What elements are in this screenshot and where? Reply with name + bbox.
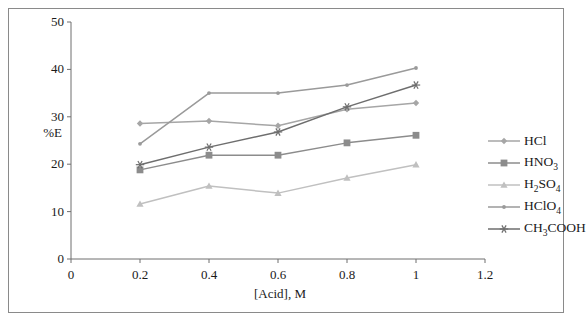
legend-key-hclo4 (487, 200, 521, 214)
y-tick-label: 10 (22, 205, 64, 218)
legend-marker-icon (487, 222, 521, 236)
chart-legend: HCl HNO3 H2SO4 HClO4 CH3COOH (487, 130, 573, 240)
legend-marker-icon (487, 156, 521, 170)
chart-axes (67, 22, 485, 263)
legend-key-hno3 (487, 156, 521, 170)
legend-key-h2so4 (487, 178, 521, 192)
legend-item-h2so4[interactable]: H2SO4 (487, 174, 573, 196)
legend-key-ch3cooh (487, 222, 521, 236)
legend-item-hclo4[interactable]: HClO4 (487, 196, 573, 218)
y-tick-label: 50 (22, 15, 64, 28)
legend-key-hcl (487, 134, 521, 148)
y-tick-label: 30 (22, 110, 64, 123)
y-axis-title: %E (16, 125, 62, 141)
x-tick-label: 0.2 (118, 268, 162, 281)
legend-label-h2so4: H2SO4 (521, 176, 561, 194)
chart-series-layer (136, 66, 420, 207)
legend-item-hno3[interactable]: HNO3 (487, 152, 573, 174)
legend-label-hno3: HNO3 (521, 154, 558, 172)
legend-marker-icon (487, 134, 521, 148)
legend-label-ch3cooh: CH3COOH (521, 220, 586, 238)
y-tick-label: 20 (22, 157, 64, 170)
x-tick-label: 0.4 (187, 268, 231, 281)
legend-item-hcl[interactable]: HCl (487, 130, 573, 152)
x-axis-title: [Acid], M (190, 286, 370, 302)
x-tick-label: 1.2 (463, 268, 507, 281)
x-tick-label: 0.8 (325, 268, 369, 281)
legend-label-hcl: HCl (521, 133, 547, 149)
x-tick-label: 1 (394, 268, 438, 281)
legend-marker-icon (487, 178, 521, 192)
x-tick-label: 0 (49, 268, 93, 281)
legend-item-ch3cooh[interactable]: CH3COOH (487, 218, 573, 240)
x-tick-label: 0.6 (256, 268, 300, 281)
legend-label-hclo4: HClO4 (521, 198, 561, 216)
legend-marker-icon (487, 200, 521, 214)
y-tick-label: 40 (22, 62, 64, 75)
y-tick-label: 0 (22, 252, 64, 265)
